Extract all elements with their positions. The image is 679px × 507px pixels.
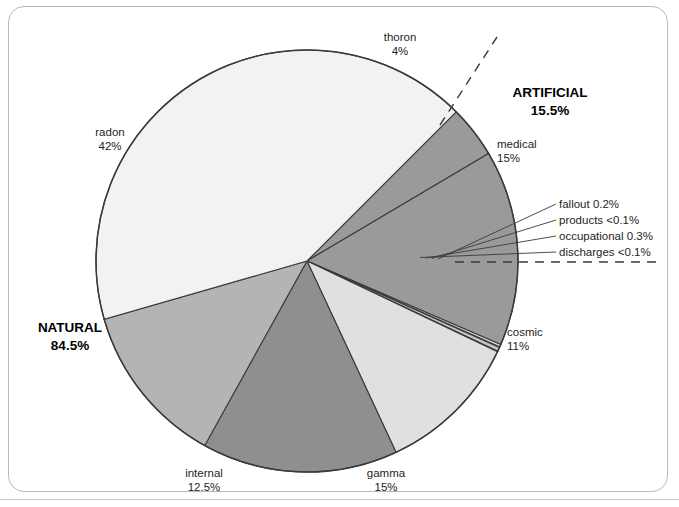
group-label-natural: NATURAL 84.5% — [10, 319, 130, 354]
figure-container: thoron 4% medical 15% cosmic 11% gamma 1… — [0, 0, 679, 507]
slice-label-cosmic-value: 11% — [507, 339, 543, 353]
slice-label-medical: medical 15% — [497, 137, 537, 166]
slice-label-internal-name: internal — [164, 466, 244, 480]
slice-label-internal-value: 12.5% — [164, 480, 244, 494]
group-label-artificial: ARTIFICIAL 15.5% — [478, 84, 622, 119]
slice-label-gamma: gamma 15% — [350, 466, 422, 495]
slice-label-thoron: thoron 4% — [362, 30, 438, 59]
callout-label-occupational: occupational 0.3% — [559, 230, 653, 242]
slice-label-cosmic: cosmic 11% — [507, 325, 543, 354]
slice-label-medical-name: medical — [497, 137, 537, 151]
slice-label-medical-value: 15% — [497, 151, 537, 165]
group-label-natural-value: 84.5% — [10, 337, 130, 355]
bottom-rule — [0, 499, 679, 500]
slice-label-thoron-value: 4% — [362, 44, 438, 58]
slice-label-internal: internal 12.5% — [164, 466, 244, 495]
group-label-artificial-name: ARTIFICIAL — [478, 84, 622, 102]
slice-label-radon-name: radon — [78, 125, 142, 139]
group-label-natural-name: NATURAL — [10, 319, 130, 337]
labels-layer: thoron 4% medical 15% cosmic 11% gamma 1… — [0, 0, 679, 507]
callout-label-products: products <0.1% — [559, 214, 639, 226]
slice-label-radon: radon 42% — [78, 125, 142, 154]
callout-label-discharges: discharges <0.1% — [559, 246, 651, 258]
slice-label-radon-value: 42% — [78, 139, 142, 153]
slice-label-gamma-value: 15% — [350, 480, 422, 494]
slice-label-thoron-name: thoron — [362, 30, 438, 44]
group-label-artificial-value: 15.5% — [478, 102, 622, 120]
callout-label-fallout: fallout 0.2% — [559, 198, 619, 210]
slice-label-cosmic-name: cosmic — [507, 325, 543, 339]
slice-label-gamma-name: gamma — [350, 466, 422, 480]
